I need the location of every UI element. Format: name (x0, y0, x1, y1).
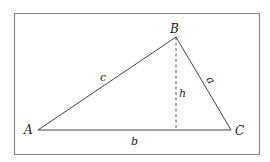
vertex-label-a: A (23, 123, 33, 137)
diagram-frame (15, 14, 260, 155)
vertex-label-b: B (169, 22, 179, 36)
side-label-c: c (100, 71, 106, 84)
triangle-diagram: A B C c a b h (0, 0, 270, 162)
side-label-b: b (131, 135, 138, 148)
vertex-label-c: C (235, 124, 244, 138)
altitude-label-h: h (179, 87, 186, 100)
